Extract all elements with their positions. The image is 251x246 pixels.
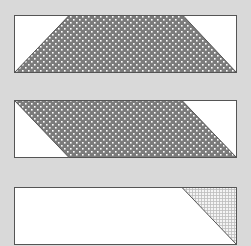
panel-triangle [15,188,237,245]
diagram-canvas [0,0,251,246]
panel-parallelogram [15,101,237,158]
panel-trapezoid [15,16,237,73]
